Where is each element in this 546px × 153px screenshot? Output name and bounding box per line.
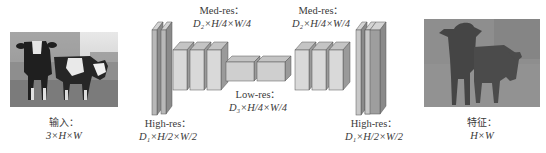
output-dims: H×W: [442, 129, 522, 142]
decoder-high-res-dims: D₁×H/2×W/2: [334, 130, 414, 143]
output-title: 特征：: [442, 116, 522, 129]
output-feature-image: [424, 19, 540, 107]
decoder-high-res-slabs: [356, 22, 386, 115]
encoder-med-res-blocks: [173, 42, 228, 90]
bottleneck-low-res-blocks: [226, 56, 291, 81]
cow-segmentation-icon: [424, 19, 540, 107]
encoder-med-res-label: Med-res： D₂×H/4×W/4: [182, 4, 262, 30]
bottleneck-low-res-label: Low-res： D₃×H/4×W/4: [218, 88, 298, 114]
decoder-med-res-title: Med-res：: [281, 4, 361, 17]
output-label: 特征： H×W: [442, 116, 522, 142]
encoder-high-res-dims: D₁×H/2×W/2: [128, 130, 208, 143]
bottleneck-low-res-title: Low-res：: [218, 88, 298, 101]
decoder-med-res-dims: D₂×H/4×W/4: [281, 17, 361, 30]
encoder-high-res-label: High-res： D₁×H/2×W/2: [128, 117, 208, 143]
encoder-med-res-dims: D₂×H/4×W/4: [182, 17, 262, 30]
encoder-high-res-title: High-res：: [128, 117, 208, 130]
encoder-med-res-title: Med-res：: [182, 4, 262, 17]
bottleneck-low-res-dims: D₃×H/4×W/4: [218, 101, 298, 114]
decoder-med-res-label: Med-res： D₂×H/4×W/4: [281, 4, 361, 30]
decoder-med-res-blocks: [295, 42, 350, 90]
encoder-high-res-slabs: [152, 22, 172, 115]
decoder-high-res-label: High-res： D₁×H/2×W/2: [334, 117, 414, 143]
decoder-high-res-title: High-res：: [334, 117, 414, 130]
